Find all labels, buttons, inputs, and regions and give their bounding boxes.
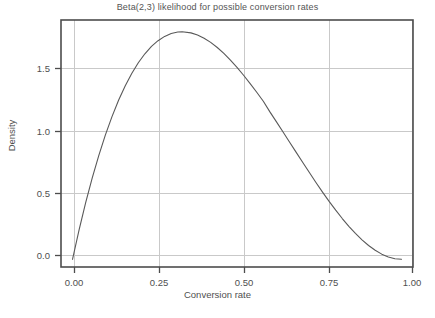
xtick-label-0: 0.00 <box>54 277 94 288</box>
xtick-label-2: 0.50 <box>224 277 264 288</box>
grid-lines <box>61 20 413 267</box>
x-axis-label: Conversion rate <box>0 289 435 300</box>
tick-marks <box>55 69 413 274</box>
ytick-label-2: 1.0 <box>16 126 50 137</box>
xtick-label-4: 1.00 <box>392 277 432 288</box>
y-axis-label: Density <box>6 101 17 171</box>
ytick-label-3: 1.5 <box>16 63 50 74</box>
data-series-line <box>73 32 402 260</box>
ytick-label-0: 0.0 <box>16 250 50 261</box>
chart-figure: Beta(2,3) likelihood for possible conver… <box>0 0 435 318</box>
ytick-label-1: 0.5 <box>16 188 50 199</box>
plot-canvas <box>0 0 435 318</box>
plot-frame <box>61 20 413 267</box>
xtick-label-1: 0.25 <box>139 277 179 288</box>
xtick-label-3: 0.75 <box>309 277 349 288</box>
